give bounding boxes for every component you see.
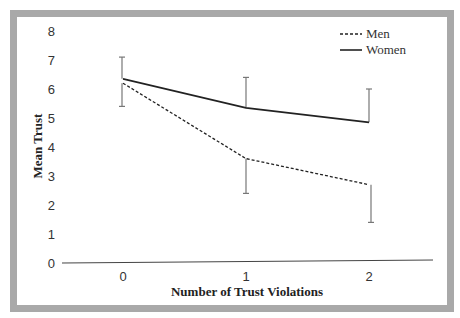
y-tick-label: 6: [48, 82, 55, 97]
x-tick-label: 0: [119, 269, 126, 284]
y-axis-ticks: 012345678: [48, 24, 55, 271]
y-tick-label: 0: [48, 256, 55, 271]
y-tick-label: 3: [48, 169, 55, 184]
legend: Men Women: [340, 26, 407, 57]
x-tick-label: 2: [365, 269, 372, 284]
line-chart: 012345678 012 Mean Trust Number of Trust…: [0, 0, 460, 318]
y-tick-label: 7: [48, 53, 55, 68]
legend-men-label: Men: [366, 26, 390, 41]
x-tick-label: 1: [242, 269, 249, 284]
y-axis-title: Mean Trust: [30, 113, 45, 179]
y-tick-label: 8: [48, 24, 55, 39]
y-tick-label: 4: [48, 140, 55, 155]
y-tick-label: 5: [48, 111, 55, 126]
error-bars: [119, 57, 374, 222]
x-axis-ticks: 012: [119, 269, 372, 284]
x-axis-line: [62, 260, 433, 263]
legend-women-label: Women: [366, 42, 407, 57]
y-tick-label: 1: [48, 227, 55, 242]
y-tick-label: 2: [48, 198, 55, 213]
x-axis-title: Number of Trust Violations: [171, 284, 323, 299]
